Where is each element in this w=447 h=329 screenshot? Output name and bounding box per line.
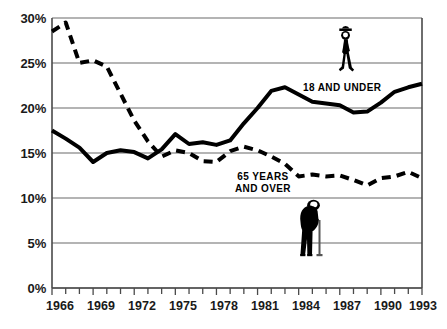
x-axis-label-1993: 1993 <box>398 299 447 313</box>
y-axis-label-0: 0% <box>6 281 46 296</box>
series-annotation-65-and-over-line2: AND OVER <box>235 183 291 194</box>
y-axis-label-15: 15% <box>6 146 46 161</box>
y-axis-label-30: 30% <box>6 11 46 26</box>
chart-background <box>0 0 447 329</box>
series-annotation-65-and-over: 65 YEARS AND OVER <box>228 171 298 194</box>
y-axis-label-25: 25% <box>6 56 46 71</box>
poverty-rate-line-chart: 30% 25% 20% 15% 10% 5% 0% 1966 1969 1972… <box>0 0 447 329</box>
chart-canvas <box>0 0 447 329</box>
series-annotation-18-and-under: 18 AND UNDER <box>303 82 381 94</box>
series-annotation-65-and-over-line1: 65 YEARS <box>237 171 288 182</box>
y-axis-label-20: 20% <box>6 101 46 116</box>
y-axis-label-10: 10% <box>6 191 46 206</box>
y-axis-label-5: 5% <box>6 236 46 251</box>
